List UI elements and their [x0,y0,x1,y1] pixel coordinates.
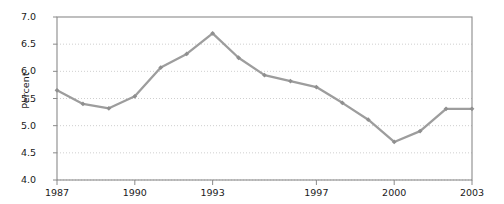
gridlines [57,44,472,180]
data-point-marker [288,79,293,84]
y-axis-ticks [53,17,57,180]
series-markers [55,31,475,144]
data-point-marker [470,106,475,111]
plot-area [0,0,504,204]
line-chart: Percent 4.04.55.05.56.06.57.0 1987199019… [0,0,504,204]
x-axis-ticks [57,180,472,185]
